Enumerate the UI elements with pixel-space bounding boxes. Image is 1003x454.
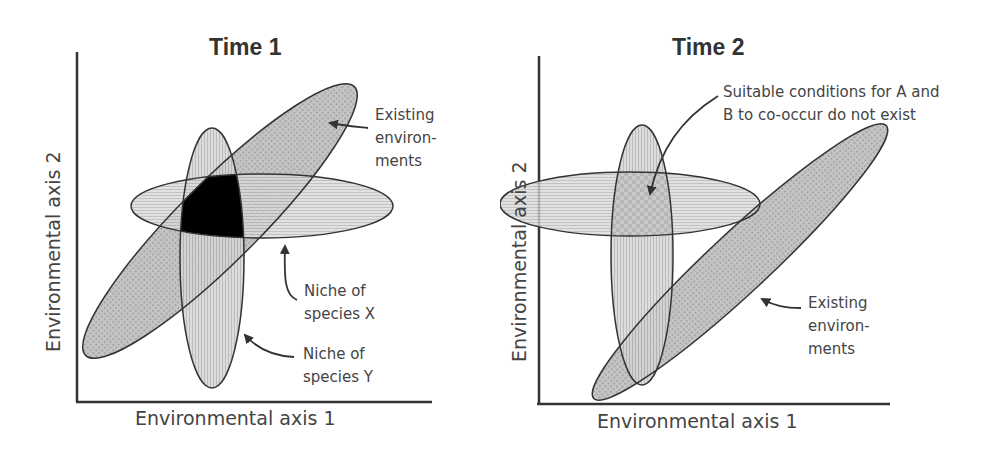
diagram-time-1 <box>0 0 500 454</box>
annotation-niche-y: Niche of species Y <box>303 343 373 389</box>
annotation-existing-environments: Existing environ- ments <box>808 292 870 361</box>
y-axis-label: Environmental axis 2 <box>42 152 64 352</box>
diagram-time-2 <box>500 0 1003 454</box>
arrow-niche-x <box>285 246 297 300</box>
arrow-niche-y <box>245 335 294 357</box>
annotation-existing-environments: Existing environ- ments <box>375 104 437 173</box>
panel-time-1: Time 1 Environmental axis 1 Environmenta… <box>0 0 500 454</box>
panel-time-2: Time 2 Environmental axis 1 Environmenta… <box>500 0 1003 454</box>
panel-title: Time 2 <box>672 34 744 61</box>
panel-title: Time 1 <box>209 34 281 61</box>
x-axis-label: Environmental axis 1 <box>135 407 335 429</box>
y-axis-label: Environmental axis 2 <box>508 162 530 362</box>
arrow-existing <box>762 299 801 308</box>
annotation-no-cooccur: Suitable conditions for A and B to co-oc… <box>723 81 940 127</box>
x-axis-label: Environmental axis 1 <box>597 410 797 432</box>
annotation-niche-x: Niche of species X <box>304 280 375 326</box>
